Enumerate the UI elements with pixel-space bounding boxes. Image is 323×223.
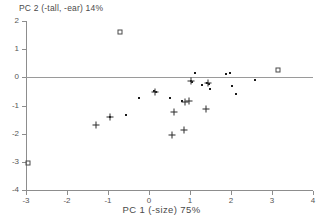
y-axis-tick-label: -2	[0, 129, 19, 138]
x-axis-tick	[67, 191, 68, 195]
data-point-dot	[209, 88, 211, 90]
y-axis-tick-label: -1	[0, 101, 19, 110]
x-axis-line	[26, 190, 313, 191]
x-axis-tick	[108, 191, 109, 195]
scatter-plot: PC 2 (-tall, -ear) 14% 210-1-2-3-4-3-2-1…	[0, 0, 323, 223]
x-axis-tick	[272, 191, 273, 195]
data-point-dot	[231, 85, 233, 87]
y-axis-tick	[22, 21, 26, 22]
data-point-square	[118, 30, 123, 35]
x-axis-tick	[231, 191, 232, 195]
data-point-dot	[169, 97, 171, 99]
plot-canvas: 210-1-2-3-4-3-2-101234	[0, 0, 323, 223]
data-point-dot	[229, 72, 231, 74]
data-point-dot	[201, 84, 203, 86]
y-axis-tick	[22, 49, 26, 50]
data-point-dot	[254, 79, 256, 81]
x-axis-tick	[190, 191, 191, 195]
data-point-plus	[180, 127, 187, 134]
y-axis-tick-label: -4	[0, 185, 19, 194]
data-point-dot	[138, 97, 140, 99]
zero-reference-line	[26, 77, 313, 78]
data-point-dot	[194, 72, 196, 74]
data-point-dot	[225, 73, 227, 75]
data-point-plus	[188, 78, 195, 85]
data-point-plus	[168, 132, 175, 139]
y-axis-tick	[22, 134, 26, 135]
data-point-plus	[107, 113, 114, 120]
data-point-plus	[92, 122, 99, 129]
x-axis-tick	[313, 191, 314, 195]
data-point-square	[26, 161, 31, 166]
y-axis-tick-label: -3	[0, 157, 19, 166]
y-axis-tick-label: 0	[0, 72, 19, 81]
data-point-plus	[202, 106, 209, 113]
data-point-dot	[125, 114, 127, 116]
y-axis-tick-label: 1	[0, 44, 19, 53]
x-axis-title: PC 1 (-size) 75%	[0, 204, 323, 215]
data-point-dot	[235, 93, 237, 95]
x-axis-tick	[26, 191, 27, 195]
y-axis-tick	[22, 77, 26, 78]
data-point-plus	[171, 108, 178, 115]
x-axis-tick	[149, 191, 150, 195]
y-axis-tick-label: 2	[0, 16, 19, 25]
data-point-square	[276, 67, 281, 72]
data-point-plus	[186, 98, 193, 105]
y-axis-tick	[22, 106, 26, 107]
data-point-plus	[205, 80, 212, 87]
data-point-plus	[152, 88, 159, 95]
